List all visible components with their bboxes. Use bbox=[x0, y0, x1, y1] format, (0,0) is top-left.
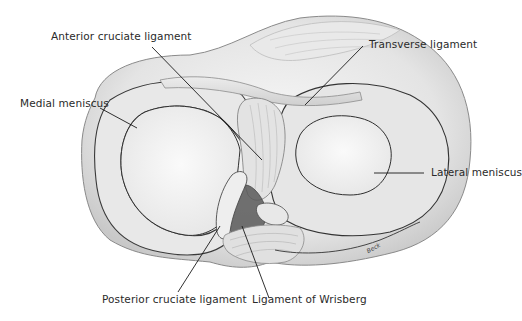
lateral-condyle-surface bbox=[296, 116, 392, 195]
label-transverse-ligament: Transverse ligament bbox=[369, 38, 477, 50]
label-lateral-meniscus: Lateral meniscus bbox=[431, 166, 522, 178]
label-ligament-of-wrisberg: Ligament of Wrisberg bbox=[252, 293, 367, 305]
label-medial-meniscus: Medial meniscus bbox=[20, 97, 109, 109]
label-anterior-cruciate-ligament: Anterior cruciate ligament bbox=[51, 30, 192, 42]
label-posterior-cruciate-ligament: Posterior cruciate ligament bbox=[102, 293, 247, 305]
